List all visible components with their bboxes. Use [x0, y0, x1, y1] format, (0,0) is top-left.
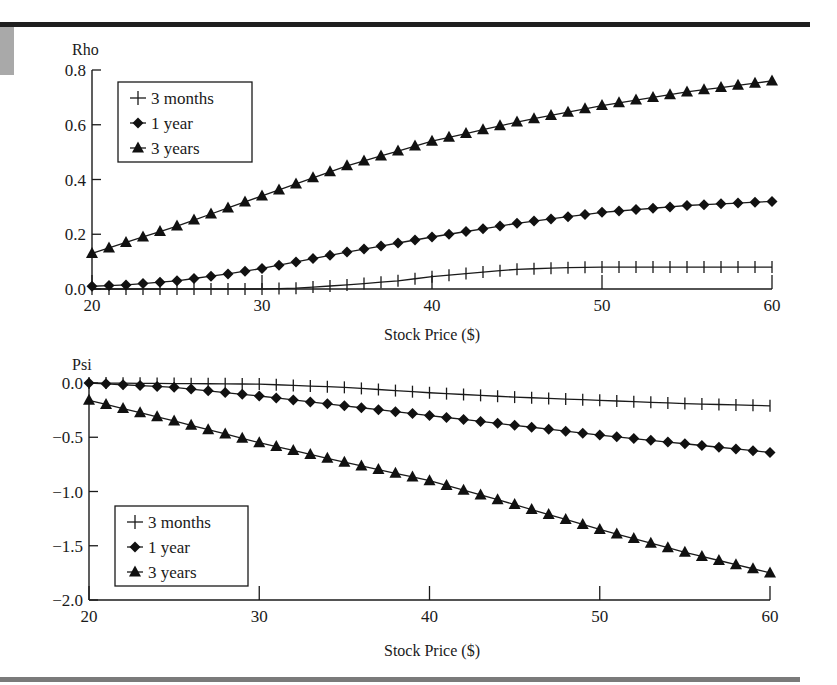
diamond-marker-icon [206, 271, 217, 282]
diamond-marker-icon [662, 437, 673, 448]
diamond-marker-icon [475, 416, 486, 427]
diamond-marker-icon [407, 408, 418, 419]
diamond-marker-icon [325, 250, 336, 261]
y-tick-label: −1.0 [52, 483, 83, 502]
diamond-marker-icon [495, 221, 506, 232]
diamond-marker-icon [594, 430, 605, 441]
diamond-marker-icon [441, 412, 452, 423]
x-axis-title: Stock Price ($) [384, 326, 480, 344]
diamond-marker-icon [543, 424, 554, 435]
x-tick-label: 20 [84, 296, 101, 315]
diamond-marker-icon [563, 211, 574, 222]
diamond-marker-icon [560, 426, 571, 437]
diamond-marker-icon [699, 199, 710, 210]
triangle-marker-icon [766, 74, 778, 85]
diamond-marker-icon [679, 438, 690, 449]
diamond-marker-icon [645, 435, 656, 446]
diamond-marker-icon [339, 400, 350, 411]
diamond-marker-icon [614, 205, 625, 216]
diamond-marker-icon [750, 197, 761, 208]
diamond-marker-icon [138, 278, 149, 289]
diamond-marker-icon [597, 207, 608, 218]
diamond-marker-icon [288, 394, 299, 405]
x-tick-label: 30 [254, 296, 271, 315]
diamond-marker-icon [237, 389, 248, 400]
diamond-marker-icon [118, 379, 129, 390]
diamond-marker-icon [526, 422, 537, 433]
diamond-marker-icon [512, 218, 523, 229]
diamond-marker-icon [84, 378, 95, 389]
diamond-marker-icon [135, 380, 146, 391]
x-tick-label: 50 [591, 607, 608, 626]
diamond-marker-icon [696, 440, 707, 451]
diamond-marker-icon [254, 391, 265, 402]
diamond-marker-icon [155, 277, 166, 288]
diamond-marker-icon [767, 196, 778, 207]
diamond-marker-icon [393, 238, 404, 249]
diamond-marker-icon [203, 385, 214, 396]
diamond-marker-icon [390, 406, 401, 417]
legend-label: 1 year [148, 538, 190, 557]
diamond-marker-icon [716, 198, 727, 209]
diamond-marker-icon [257, 263, 268, 274]
diamond-marker-icon [665, 201, 676, 212]
diamond-marker-icon [580, 209, 591, 220]
rho-chart: 0.00.20.40.60.82030405060RhoStock Price … [65, 41, 781, 344]
diamond-marker-icon [223, 268, 234, 279]
diamond-marker-icon [308, 253, 319, 264]
legend-label: 1 year [151, 114, 193, 133]
legend: 3 months1 year3 years [118, 82, 252, 162]
diamond-marker-icon [427, 231, 438, 242]
diamond-marker-icon [220, 387, 231, 398]
x-axis-title: Stock Price ($) [384, 642, 480, 660]
triangle-marker-icon [83, 394, 95, 405]
diamond-marker-icon [611, 431, 622, 442]
x-tick-label: 40 [421, 607, 438, 626]
y-tick-label: 0.8 [65, 61, 86, 80]
y-tick-label: −2.0 [52, 591, 83, 610]
diamond-marker-icon [765, 447, 776, 458]
diamond-marker-icon [529, 216, 540, 227]
diamond-marker-icon [322, 398, 333, 409]
diamond-marker-icon [291, 256, 302, 267]
legend-label: 3 years [148, 563, 197, 582]
diamond-marker-icon [628, 433, 639, 444]
diamond-marker-icon [424, 410, 435, 421]
diamond-marker-icon [461, 226, 472, 237]
diamond-marker-icon [713, 442, 724, 453]
y-axis-title: Rho [72, 41, 99, 58]
legend-label: 3 months [148, 513, 211, 532]
diamond-marker-icon [682, 200, 693, 211]
diamond-marker-icon [376, 241, 387, 252]
y-tick-label: 0.2 [65, 225, 86, 244]
y-tick-label: 0.0 [62, 374, 83, 393]
diamond-marker-icon [152, 381, 163, 392]
x-tick-label: 50 [594, 296, 611, 315]
diamond-marker-icon [356, 402, 367, 413]
diamond-marker-icon [577, 428, 588, 439]
legend: 3 months1 year3 years [115, 506, 248, 586]
diamond-marker-icon [444, 229, 455, 240]
diamond-marker-icon [733, 198, 744, 209]
x-tick-label: 20 [81, 607, 98, 626]
diamond-marker-icon [359, 244, 370, 255]
x-tick-label: 40 [424, 296, 441, 315]
diamond-marker-icon [648, 203, 659, 214]
x-tick-label: 60 [762, 607, 779, 626]
diamond-marker-icon [271, 392, 282, 403]
diamond-marker-icon [730, 443, 741, 454]
diamond-marker-icon [631, 204, 642, 215]
diamond-marker-icon [186, 384, 197, 395]
diamond-marker-icon [410, 234, 421, 245]
psi-chart: 0.0−0.5−1.0−1.5−2.02030405060PsiStock Pr… [52, 356, 778, 660]
diamond-marker-icon [189, 273, 200, 284]
diamond-marker-icon [509, 420, 520, 431]
diamond-marker-icon [305, 396, 316, 407]
y-tick-label: 0.4 [65, 171, 87, 190]
diamond-marker-icon [546, 213, 557, 224]
x-tick-label: 30 [251, 607, 268, 626]
diamond-marker-icon [373, 404, 384, 415]
diamond-marker-icon [458, 414, 469, 425]
diamond-marker-icon [274, 260, 285, 271]
diamond-marker-icon [172, 275, 183, 286]
